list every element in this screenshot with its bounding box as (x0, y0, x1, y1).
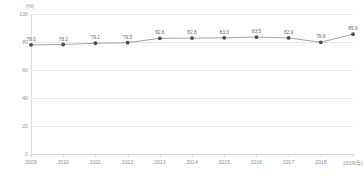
x-tick-label-8: 2017 (283, 159, 295, 165)
plot-area: 020406080100 200920102011201220132014201… (31, 14, 353, 154)
y-axis-unit-label: (%) (26, 3, 34, 9)
data-point-2011 (94, 41, 98, 45)
data-label-2019(年): 85.6 (348, 25, 357, 31)
x-tick-label-7: 2016 (251, 159, 263, 165)
data-point-2014 (190, 36, 194, 40)
x-tick-label-9: 2018 (315, 159, 327, 165)
x-tick-label-4: 2013 (154, 159, 166, 165)
x-tick-label-5: 2014 (186, 159, 198, 165)
data-point-2009 (29, 43, 33, 47)
data-point-2016 (255, 35, 259, 39)
data-point-2018 (319, 40, 323, 44)
data-label-2014: 82.8 (187, 29, 196, 35)
data-point-2013 (158, 36, 162, 40)
y-tick-label-60: 60 (22, 67, 28, 73)
x-tick-label-1: 2010 (57, 159, 69, 165)
data-point-2010 (61, 43, 65, 47)
x-tick-mark-1 (63, 154, 64, 157)
data-label-2010: 78.2 (59, 36, 68, 42)
data-label-2011: 79.1 (91, 34, 100, 40)
x-tick-label-3: 2012 (122, 159, 134, 165)
x-tick-mark-3 (128, 154, 129, 157)
x-tick-mark-7 (256, 154, 257, 157)
y-tick-label-40: 40 (22, 95, 28, 101)
data-label-2012: 79.5 (123, 34, 132, 40)
x-tick-label-2: 2011 (90, 159, 101, 165)
y-tick-label-100: 100 (19, 11, 28, 17)
data-label-2015: 83.0 (220, 29, 229, 35)
x-tick-mark-9 (321, 154, 322, 157)
y-tick-label-0: 0 (25, 151, 28, 157)
x-tick-label-10: 2019(年) (343, 159, 363, 166)
data-label-2013: 82.6 (155, 29, 164, 35)
data-point-2017 (287, 36, 291, 40)
x-tick-label-0: 2009 (25, 159, 37, 165)
data-label-2016: 83.5 (252, 28, 261, 34)
data-point-2015 (222, 36, 226, 40)
x-tick-mark-2 (95, 154, 96, 157)
data-point-2012 (126, 41, 130, 45)
x-tick-mark-0 (31, 154, 32, 157)
x-tick-mark-4 (160, 154, 161, 157)
y-tick-label-20: 20 (22, 123, 28, 129)
x-tick-mark-10 (353, 154, 354, 157)
x-tick-label-6: 2015 (218, 159, 230, 165)
data-label-2018: 79.8 (316, 33, 325, 39)
x-tick-mark-6 (224, 154, 225, 157)
data-point-2019(年) (351, 32, 355, 36)
x-tick-mark-5 (192, 154, 193, 157)
data-label-2009: 78.0 (26, 36, 35, 42)
data-label-2017: 82.9 (284, 29, 293, 35)
x-tick-mark-8 (289, 154, 290, 157)
